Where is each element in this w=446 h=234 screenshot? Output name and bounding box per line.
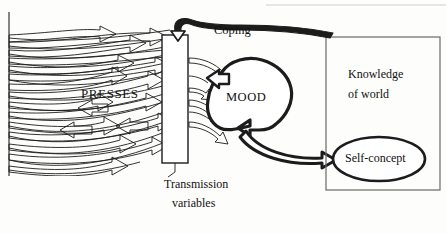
- transmission-leader-line: [168, 163, 175, 177]
- coping-arrow: [171, 19, 333, 41]
- mood-to-self-concept-arrow: [240, 131, 336, 168]
- presses-label: PRESSES: [81, 86, 139, 102]
- press-streamer: [9, 62, 170, 75]
- press-streamer: [9, 130, 170, 153]
- press-arrow: [9, 57, 172, 81]
- knowledge-of-world-label-line2: of world: [348, 87, 389, 102]
- mood-label: MOOD: [226, 90, 266, 105]
- press-streamer: [9, 30, 170, 40]
- press-arrow: [9, 28, 168, 48]
- transmission-variables-label-line1: Transmission: [164, 177, 228, 192]
- self-concept-label: Self-concept: [345, 151, 406, 166]
- knowledge-of-world-label-line1: Knowledge: [348, 67, 403, 82]
- transmission-variables-label-line2: variables: [172, 196, 215, 211]
- transmission-variables-box: [162, 35, 188, 163]
- coping-label: Coping: [214, 23, 251, 38]
- figure-canvas: PRESSES MOOD Coping Self-concept Knowled…: [0, 0, 446, 234]
- thin-streamer: [189, 76, 208, 83]
